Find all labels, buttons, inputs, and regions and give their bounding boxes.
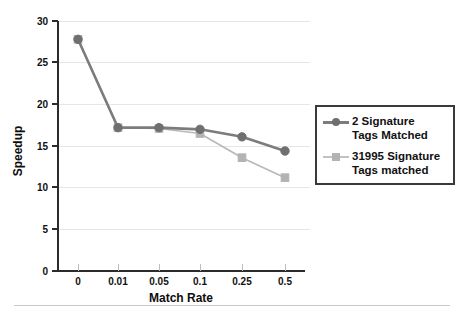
- square-marker-icon: [323, 150, 349, 164]
- x-axis-ticks: [78, 264, 285, 271]
- x-tick-label: 0.01: [108, 276, 128, 287]
- data-point: [238, 133, 246, 141]
- y-tick-label: 15: [37, 141, 49, 152]
- x-tick-label: 0.25: [232, 276, 252, 287]
- y-tick-label: 10: [37, 182, 49, 193]
- x-tick-label: 0: [75, 276, 81, 287]
- x-tick-label: 0.5: [278, 276, 292, 287]
- caption-divider: [14, 305, 450, 306]
- y-axis-ticks: [52, 21, 58, 271]
- data-point: [74, 35, 82, 43]
- legend-item-series-a: 2 Signature Tags Matched: [323, 114, 428, 142]
- y-axis-title: Speedup: [11, 126, 25, 177]
- circle-marker-icon: [323, 115, 349, 129]
- x-tick-label: 0.1: [193, 276, 207, 287]
- data-point: [281, 147, 289, 155]
- legend-item-series-b: 31995 Signature Tags matched: [323, 149, 440, 177]
- gridlines: [58, 21, 310, 229]
- series-31995-signature-tags-matched: [74, 36, 289, 182]
- data-point: [155, 123, 163, 131]
- chart-legend: 2 Signature Tags Matched 31995 Signature…: [315, 105, 455, 185]
- figure-container: 30 25 20 15 10 5 0 0 0.01 0.05 0.1 0.25 …: [0, 0, 464, 319]
- figure-caption: [14, 309, 450, 319]
- y-tick-label: 25: [37, 57, 49, 68]
- data-point: [281, 174, 289, 182]
- data-point: [114, 123, 122, 131]
- legend-label: 2 Signature Tags Matched: [352, 114, 428, 142]
- y-tick-label: 5: [42, 224, 48, 235]
- x-tick-label: 0.05: [149, 276, 169, 287]
- y-tick-label: 30: [37, 16, 49, 27]
- y-tick-label: 20: [37, 99, 49, 110]
- legend-label: 31995 Signature Tags matched: [352, 149, 440, 177]
- y-tick-label: 0: [42, 266, 48, 277]
- series-2-signature-tags-matched: [74, 35, 289, 155]
- x-axis-title: Match Rate: [149, 291, 213, 305]
- data-point: [196, 125, 204, 133]
- data-point: [238, 154, 246, 162]
